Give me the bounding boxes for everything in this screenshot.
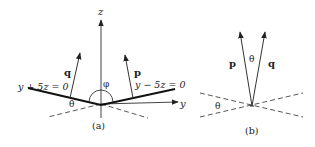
vector-q-arrow-b <box>252 32 265 106</box>
plane-right-label: y − 5z = 0 <box>134 79 185 90</box>
panel-a: z y y + 5z = 0 y − 5z = 0 q p φ θ (a) <box>17 6 186 131</box>
z-axis-label: z <box>97 6 104 17</box>
vector-p-arrow <box>125 55 133 98</box>
plane-left-label: y + 5z = 0 <box>17 81 68 92</box>
vector-p-arrow-b <box>240 32 252 106</box>
dashed-line-left <box>48 104 101 117</box>
vector-p-label: p <box>134 67 141 78</box>
theta-dashed-label: θ <box>215 101 220 111</box>
caption-a: (a) <box>92 120 105 131</box>
vector-q-label: q <box>64 67 71 78</box>
dashed-line-right <box>101 104 148 118</box>
caption-b: (b) <box>245 125 259 136</box>
diagram-canvas: z y y + 5z = 0 y − 5z = 0 q p φ θ (a) p … <box>0 0 315 147</box>
theta-label-a: θ <box>69 99 74 109</box>
vector-p-label-b: p <box>229 58 236 69</box>
panel-b: p q θ θ (b) <box>200 32 303 136</box>
phi-label: φ <box>103 79 109 89</box>
y-axis-label: y <box>179 98 186 109</box>
vector-q-arrow <box>70 53 80 98</box>
vector-q-label-b: q <box>268 58 275 69</box>
theta-between-label: θ <box>249 54 254 64</box>
